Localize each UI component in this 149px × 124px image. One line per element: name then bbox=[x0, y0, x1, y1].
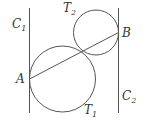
segment-ab bbox=[30, 33, 119, 80]
label-point-b: B bbox=[121, 26, 131, 40]
label-c1: C1 bbox=[12, 17, 26, 33]
label-t1: T1 bbox=[84, 103, 97, 119]
circle-t2 bbox=[74, 10, 119, 55]
label-point-a: A bbox=[15, 72, 25, 86]
label-c2: C2 bbox=[122, 89, 136, 105]
tangent-circles-diagram: C1 C2 T1 T2 A B bbox=[0, 0, 149, 124]
label-t2: T2 bbox=[63, 1, 76, 17]
